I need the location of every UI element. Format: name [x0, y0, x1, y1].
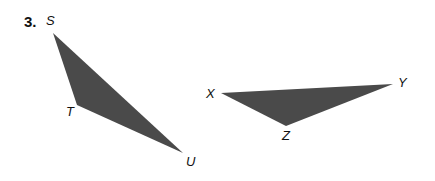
- vertex-label-u: U: [186, 154, 195, 169]
- triangle-stu: [53, 33, 183, 153]
- vertex-label-y: Y: [398, 75, 407, 90]
- triangles-canvas: [0, 0, 435, 181]
- vertex-label-x: X: [206, 86, 215, 101]
- vertex-label-z: Z: [282, 128, 290, 143]
- figure: 3. S T U X Y Z: [0, 0, 435, 181]
- vertex-label-t: T: [66, 104, 74, 119]
- triangle-xyz: [221, 84, 393, 126]
- vertex-label-s: S: [46, 13, 55, 28]
